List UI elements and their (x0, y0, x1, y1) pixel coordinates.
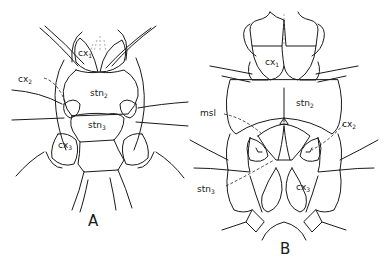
label-b-cx3: cx3 (296, 182, 310, 193)
label-a-cx3: cx3 (58, 140, 72, 151)
panel-label-a: A (88, 212, 99, 230)
panel-label-b: B (280, 240, 290, 258)
label-a-stn3: stn3 (88, 120, 106, 131)
label-b-cx1: cx1 (265, 57, 279, 68)
figure: cx1 stn2 cx2 stn3 cx3 A (0, 0, 383, 268)
panel-a-labels: cx1 stn2 cx2 stn3 cx3 A (18, 48, 108, 230)
label-b-cx2: cx2 (342, 119, 356, 130)
panel-a-drawing (12, 26, 188, 212)
label-b-stn3: stn3 (197, 184, 215, 195)
label-b-msl: msl (200, 108, 216, 118)
label-b-stn2: stn2 (296, 98, 314, 109)
label-a-cx2: cx2 (18, 74, 32, 85)
panel-b-labels: cx1 stn2 msl cx2 stn3 cx3 B (197, 57, 356, 258)
label-a-stn2: stn2 (90, 88, 108, 99)
